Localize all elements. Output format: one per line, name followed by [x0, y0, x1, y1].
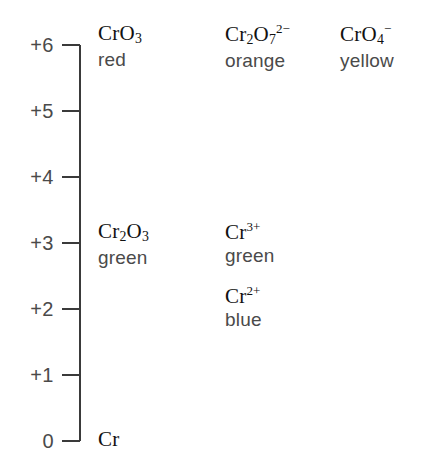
species-cr2o3: Cr2O3 green [98, 220, 149, 270]
axis-label-plus4: +4 [8, 166, 54, 189]
axis-tick-plus4 [62, 176, 80, 178]
species-formula: Cr2+ [225, 284, 262, 307]
species-cro3: CrO3 red [98, 22, 142, 72]
species-formula: Cr [98, 429, 120, 450]
species-cr-metal: Cr [98, 429, 120, 450]
axis-tick-zero [62, 440, 80, 442]
axis-tick-plus6 [62, 44, 80, 46]
species-colour-label: green [225, 244, 275, 268]
species-chromate: CrO4− yellow [340, 22, 394, 72]
species-formula: Cr2O72− [225, 22, 290, 48]
axis-label-plus2: +2 [8, 298, 54, 321]
species-colour-label: orange [225, 49, 290, 73]
species-cr3plus: Cr3+ green [225, 220, 275, 267]
species-formula: Cr3+ [225, 220, 275, 243]
axis-label-plus1: +1 [8, 364, 54, 387]
axis-tick-plus3 [62, 242, 80, 244]
oxidation-state-diagram: +6 +5 +4 +3 +2 +1 0 CrO3 red Cr2O72− ora… [0, 0, 429, 463]
species-colour-label: yellow [340, 49, 394, 73]
axis-tick-plus5 [62, 110, 80, 112]
axis-label-plus3: +3 [8, 232, 54, 255]
species-colour-label: blue [225, 308, 262, 332]
axis-tick-plus1 [62, 374, 80, 376]
species-colour-label: red [98, 48, 142, 72]
species-dichromate: Cr2O72− orange [225, 22, 290, 72]
axis-label-plus6: +6 [8, 34, 54, 57]
species-formula: Cr2O3 [98, 220, 149, 245]
axis-tick-plus2 [62, 308, 80, 310]
axis-label-plus5: +5 [8, 100, 54, 123]
axis-label-zero: 0 [8, 430, 54, 453]
species-formula: CrO4− [340, 22, 394, 48]
species-colour-label: green [98, 246, 149, 270]
species-cr2plus: Cr2+ blue [225, 284, 262, 331]
species-formula: CrO3 [98, 22, 142, 47]
